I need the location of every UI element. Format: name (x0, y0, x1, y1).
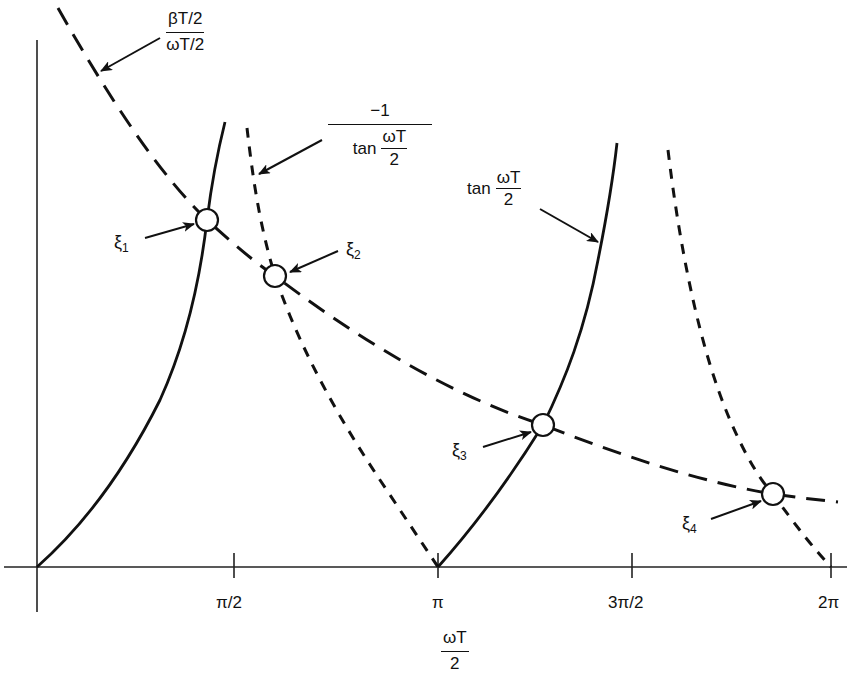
hyperbola-curve (58, 8, 838, 502)
xi4-arrow-icon (711, 501, 761, 519)
neg-cot-label-denominator: tan ωT 2 (353, 125, 407, 170)
neg-cot-label-numerator: −1 (368, 102, 391, 124)
xi-symbol: ξ (452, 440, 460, 460)
hyperbola-label-numerator: βT/2 (166, 10, 204, 32)
neg-cot-curve-branch-1 (247, 128, 438, 567)
tan-label-arrow-icon (540, 209, 598, 242)
omega-t-text: ωT (496, 169, 522, 188)
xi-symbol: ξ (682, 513, 690, 533)
intersection-xi2-marker (264, 265, 286, 287)
xi-subscript: 4 (690, 522, 697, 536)
omega-t-over-2: ωT 2 (381, 128, 407, 170)
intersection-xi3-marker (532, 414, 554, 436)
intersection-xi4-marker (762, 483, 784, 505)
two-text: 2 (390, 149, 399, 170)
tan-text: tan (467, 180, 491, 197)
omega-t-text: ωT (381, 128, 407, 149)
xi-subscript: 3 (460, 449, 467, 463)
x-axis-label-numerator: ωT (441, 629, 469, 651)
x-axis-label: ωT 2 (441, 629, 469, 673)
tick-label-2pi: 2π (818, 594, 839, 611)
tick-label-pi: π (432, 594, 444, 611)
omega-t-over-2: ωT 2 (496, 169, 522, 208)
hyperbola-label-arrow-icon (101, 38, 160, 71)
xi-symbol: ξ (114, 232, 122, 252)
hyperbola-label-denominator: ωT/2 (166, 33, 204, 55)
x-axis-label-denominator: 2 (450, 652, 459, 674)
tan-curve-branch-1 (37, 122, 225, 567)
xi3-arrow-icon (483, 432, 531, 447)
tan-label: tan ωT 2 (467, 169, 521, 208)
xi-subscript: 2 (354, 248, 361, 262)
xi3-label: ξ3 (452, 441, 467, 462)
xi1-arrow-icon (145, 224, 194, 238)
tan-text: tan (353, 140, 377, 159)
tick-label-pi-2: π/2 (216, 594, 242, 611)
xi2-arrow-icon (290, 251, 338, 272)
neg-cot-label-arrow-icon (259, 140, 322, 174)
neg-cot-label: −1 tan ωT 2 (328, 102, 432, 170)
xi1-label: ξ1 (114, 233, 129, 254)
xi-symbol: ξ (346, 239, 354, 259)
tan-curve-branch-2 (438, 143, 617, 567)
intersection-xi1-marker (196, 209, 218, 231)
xi2-label: ξ2 (346, 240, 361, 261)
xi-subscript: 1 (122, 241, 129, 255)
xi4-label: ξ4 (682, 514, 697, 535)
tick-label-3pi-2: 3π/2 (608, 594, 643, 611)
hyperbola-label: βT/2 ωT/2 (166, 10, 204, 54)
two-text: 2 (504, 189, 513, 208)
